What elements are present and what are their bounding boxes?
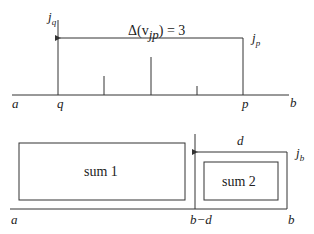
label-p: p: [242, 97, 249, 110]
label-j-p: jp: [252, 31, 260, 48]
label-j-q: jq: [48, 10, 56, 27]
label-b-top: b: [290, 96, 297, 109]
label-a-top: a: [12, 97, 19, 110]
label-j-b: jb: [296, 146, 304, 163]
label-b-bottom: b: [288, 213, 295, 226]
bottom-diagram: [10, 134, 287, 209]
label-a-bottom: a: [11, 213, 18, 226]
label-b-minus-d: b−d: [190, 213, 212, 226]
label-sum2: sum 2: [222, 175, 256, 189]
label-delta-equation: Δ(vjp) = 3: [128, 24, 185, 41]
label-q: q: [57, 97, 64, 110]
label-sum1: sum 1: [84, 165, 118, 179]
label-d: d: [237, 134, 244, 147]
